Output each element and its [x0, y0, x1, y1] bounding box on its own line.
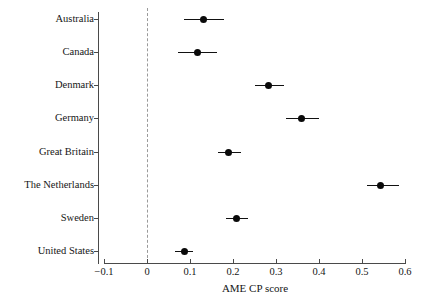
x-axis-title: AME CP score — [190, 282, 320, 295]
x-tick-3 — [233, 259, 234, 263]
data-point-united-states — [181, 248, 188, 255]
y-tick-label-wrap-3: Germany — [0, 112, 94, 124]
zero-reference-line — [147, 8, 148, 263]
y-tick-label-united-states: United States — [38, 245, 94, 256]
y-tick-label-the-netherlands: The Netherlands — [24, 179, 94, 190]
y-tick-label-wrap-2: Denmark — [0, 79, 94, 91]
y-tick-australia — [94, 19, 99, 20]
x-tick-5 — [319, 259, 320, 263]
x-tick-label-5: 0.4 — [299, 266, 339, 278]
y-tick-label-wrap-0: Australia — [0, 13, 94, 25]
y-tick-denmark — [94, 85, 99, 86]
x-tick-7 — [405, 259, 406, 263]
x-tick-2 — [190, 259, 191, 263]
data-point-canada — [194, 49, 201, 56]
y-tick-label-wrap-4: Great Britain — [0, 146, 94, 158]
y-tick-label-sweden: Sweden — [61, 212, 94, 223]
x-tick-label-2: 0.1 — [170, 266, 210, 278]
x-axis-line — [104, 263, 406, 264]
y-tick-label-canada: Canada — [63, 46, 95, 57]
data-point-the-netherlands — [377, 182, 384, 189]
x-tick-label-6: 0.5 — [342, 266, 382, 278]
x-tick-6 — [362, 259, 363, 263]
data-point-australia — [200, 16, 207, 23]
y-tick-label-wrap-6: Sweden — [0, 212, 94, 224]
y-tick-label-wrap-1: Canada — [0, 46, 94, 58]
plot-area: Australia Canada Denmark Germany Great B… — [0, 0, 427, 304]
y-tick-label-wrap-5: The Netherlands — [0, 179, 94, 191]
x-tick-label-1: 0 — [127, 266, 167, 278]
y-tick-canada — [94, 52, 99, 53]
x-tick-label-0: −0.1 — [84, 266, 124, 278]
y-tick-label-australia: Australia — [56, 13, 95, 24]
y-tick-germany — [94, 118, 99, 119]
x-tick-label-7: 0.6 — [385, 266, 425, 278]
x-tick-0 — [104, 259, 105, 263]
y-tick-the-netherlands — [94, 185, 99, 186]
y-tick-label-great-britain: Great Britain — [39, 146, 94, 157]
x-tick-label-4: 0.3 — [256, 266, 296, 278]
y-tick-sweden — [94, 218, 99, 219]
data-point-denmark — [265, 82, 272, 89]
ame-cp-score-dot-plot: Australia Canada Denmark Germany Great B… — [0, 0, 427, 304]
x-tick-label-3: 0.2 — [213, 266, 253, 278]
y-tick-united-states — [94, 251, 99, 252]
y-tick-label-germany: Germany — [55, 112, 94, 123]
x-tick-4 — [276, 259, 277, 263]
y-tick-great-britain — [94, 152, 99, 153]
data-point-great-britain — [225, 149, 232, 156]
y-axis-line — [98, 12, 99, 264]
y-tick-label-denmark: Denmark — [55, 79, 94, 90]
data-point-sweden — [233, 215, 240, 222]
y-tick-label-wrap-7: United States — [0, 245, 94, 257]
x-tick-1 — [147, 259, 148, 263]
data-point-germany — [298, 115, 305, 122]
